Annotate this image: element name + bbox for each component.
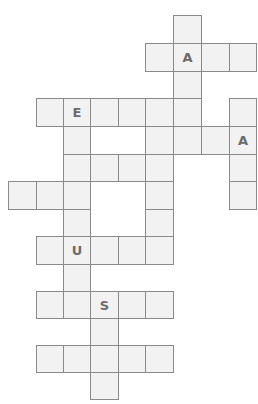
crossword-cell[interactable] xyxy=(90,154,119,182)
crossword-grid: AEAUS xyxy=(0,0,258,404)
crossword-cell[interactable] xyxy=(63,126,91,155)
crossword-cell[interactable] xyxy=(118,291,146,319)
crossword-cell[interactable] xyxy=(36,98,64,127)
crossword-cell[interactable] xyxy=(173,15,202,44)
crossword-cell[interactable] xyxy=(145,126,174,155)
crossword-cell[interactable]: E xyxy=(63,98,91,127)
crossword-cell[interactable] xyxy=(63,345,91,373)
crossword-cell[interactable] xyxy=(145,209,174,237)
crossword-cell[interactable] xyxy=(118,345,146,373)
crossword-cell[interactable] xyxy=(90,236,119,265)
crossword-cell[interactable] xyxy=(118,236,146,265)
crossword-cell[interactable] xyxy=(63,181,91,210)
crossword-cell[interactable]: A xyxy=(229,126,257,155)
crossword-cell[interactable] xyxy=(63,291,91,319)
crossword-cell[interactable] xyxy=(36,236,64,265)
crossword-cell[interactable] xyxy=(63,209,91,237)
crossword-cell[interactable]: U xyxy=(63,236,91,265)
crossword-cell[interactable] xyxy=(229,98,257,127)
crossword-cell[interactable] xyxy=(173,98,202,127)
crossword-cell[interactable] xyxy=(145,181,174,210)
crossword-cell[interactable] xyxy=(145,236,174,265)
crossword-cell[interactable] xyxy=(36,181,64,210)
crossword-cell[interactable] xyxy=(229,181,257,210)
crossword-cell[interactable] xyxy=(90,318,119,346)
crossword-cell[interactable] xyxy=(173,126,202,155)
crossword-cell[interactable] xyxy=(118,154,146,182)
crossword-cell[interactable] xyxy=(36,291,64,319)
crossword-cell[interactable] xyxy=(36,345,64,373)
crossword-cell[interactable]: A xyxy=(173,43,202,72)
crossword-cell[interactable] xyxy=(145,43,174,72)
crossword-cell[interactable] xyxy=(145,345,174,373)
crossword-cell[interactable] xyxy=(90,345,119,373)
crossword-cell[interactable] xyxy=(201,126,230,155)
crossword-cell[interactable] xyxy=(201,43,230,72)
crossword-cell[interactable] xyxy=(229,43,257,72)
crossword-cell[interactable] xyxy=(118,98,146,127)
crossword-cell[interactable] xyxy=(145,154,174,182)
crossword-cell[interactable] xyxy=(8,181,37,210)
crossword-cell[interactable] xyxy=(145,291,174,319)
crossword-cell[interactable] xyxy=(145,98,174,127)
crossword-cell[interactable] xyxy=(229,154,257,182)
crossword-cell[interactable] xyxy=(90,372,119,400)
crossword-cell[interactable] xyxy=(63,264,91,292)
crossword-cell[interactable] xyxy=(63,154,91,182)
crossword-cell[interactable]: S xyxy=(90,291,119,319)
crossword-cell[interactable] xyxy=(90,98,119,127)
crossword-cell[interactable] xyxy=(173,71,202,99)
